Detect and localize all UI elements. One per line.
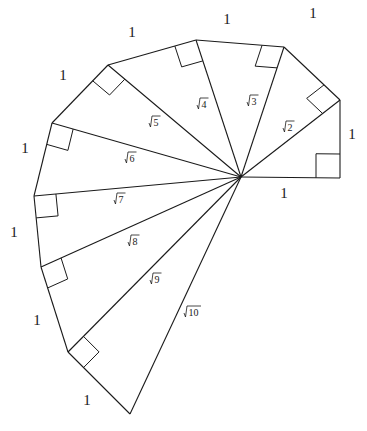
unit-label: 1 [10, 224, 18, 240]
unit-edge [34, 123, 52, 196]
hypotenuse-line [34, 177, 241, 196]
unit-edge [284, 47, 340, 100]
unit-edge [41, 267, 68, 352]
sqrt-label: 3 [247, 95, 259, 107]
unit-label: 1 [33, 312, 41, 328]
sqrt-label: 2 [283, 121, 295, 133]
sqrt-label: 8 [128, 235, 140, 247]
hypotenuse-line [241, 100, 340, 177]
radicand-text: 4 [202, 99, 207, 110]
right-angle-icon [93, 79, 125, 95]
radicand-text: 3 [252, 96, 257, 107]
radicand-text: 8 [133, 236, 138, 247]
unit-label: 1 [128, 24, 136, 40]
right-angle-markers [36, 45, 340, 367]
unit-edge [196, 40, 284, 47]
radicand-text: 10 [189, 307, 199, 318]
spiral-of-theodorus-diagram: 1111111111 2345678910 [0, 0, 367, 431]
unit-label: 1 [348, 126, 356, 142]
radicand-text: 5 [154, 117, 159, 128]
sqrt-label: 4 [197, 98, 209, 110]
unit-label: 1 [21, 140, 29, 156]
hypotenuse-lines [34, 40, 340, 414]
sqrt-label: 9 [150, 273, 162, 285]
right-angle-icon [47, 129, 73, 150]
right-angle-icon [36, 194, 58, 218]
unit-label: 1 [223, 11, 231, 27]
unit-edge [108, 40, 196, 65]
hypotenuse-line [41, 177, 241, 267]
hypotenuse-line [130, 177, 241, 414]
sqrt-label: 5 [149, 116, 161, 128]
right-angle-icon [307, 85, 324, 114]
unit-edge [68, 352, 130, 414]
radicand-text: 9 [155, 274, 160, 285]
radicand-text: 2 [288, 122, 293, 133]
hypotenuse-line [241, 177, 340, 178]
right-angle-icon [316, 154, 340, 178]
unit-label: 1 [83, 392, 91, 408]
unit-label: 1 [280, 185, 288, 201]
radical-length-labels: 2345678910 [114, 95, 295, 318]
unit-edges [34, 40, 340, 414]
sqrt-label: 6 [125, 152, 137, 164]
hypotenuse-line [68, 177, 241, 352]
unit-label: 1 [309, 5, 317, 21]
unit-label: 1 [59, 67, 67, 83]
hypotenuse-line [108, 65, 241, 177]
radicand-text: 7 [119, 194, 124, 205]
sqrt-label: 10 [184, 306, 201, 318]
right-angle-icon [255, 45, 277, 68]
sqrt-label: 7 [114, 193, 126, 205]
radicand-text: 6 [130, 153, 135, 164]
unit-edge [34, 196, 41, 267]
right-angle-icon [83, 336, 99, 367]
hypotenuse-line [52, 123, 241, 177]
